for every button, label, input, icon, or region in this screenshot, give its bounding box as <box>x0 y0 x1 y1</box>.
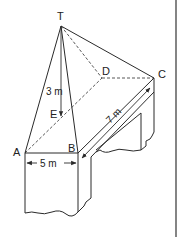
label-BC-length: 7 m <box>104 106 124 126</box>
label-T: T <box>57 10 64 22</box>
label-E: E <box>50 108 57 120</box>
hidden-edge-AD <box>25 78 102 153</box>
dim-line-BC <box>82 88 150 158</box>
label-B: B <box>68 142 75 154</box>
label-AB-length: 5 m <box>40 158 57 169</box>
pyramid-on-wall-diagram: T D C A B E 3 m 5 m 7 m <box>0 0 178 237</box>
edge-TB <box>61 26 78 153</box>
notch <box>96 113 141 152</box>
label-A: A <box>13 146 21 158</box>
label-height: 3 m <box>46 86 63 97</box>
side-face <box>78 157 91 212</box>
label-D: D <box>102 65 110 77</box>
label-C: C <box>158 68 166 80</box>
